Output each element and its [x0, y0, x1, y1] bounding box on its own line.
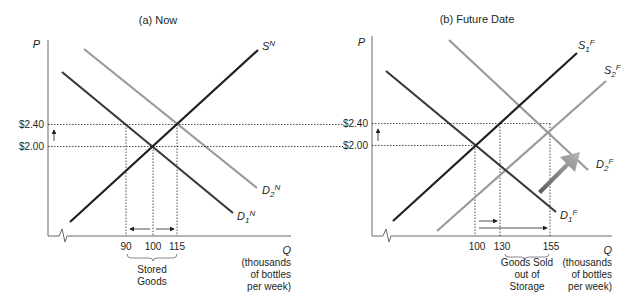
stored-goods-brace — [127, 254, 177, 261]
q-unit-line3: per week) — [247, 281, 291, 292]
q-axis-label: Q — [603, 244, 612, 256]
price-240-label: $2.40 — [19, 119, 44, 130]
goods-sold-label-3: Storage — [509, 281, 544, 292]
q-unit-line2: of bottles — [250, 269, 291, 280]
q-unit-line1: (thousands — [242, 257, 291, 268]
q-tick-100: 100 — [145, 241, 162, 252]
sn-label: SN — [262, 39, 275, 52]
panel-future-date: (b) Future Date P Q (thousands of bottle… — [153, 13, 622, 292]
demand-curve-d2n — [84, 49, 257, 188]
q-axis-label: Q — [282, 244, 291, 256]
p-axis-label: P — [358, 36, 366, 48]
stored-goods-label-2: Goods — [137, 276, 166, 287]
supply-curve-s1f — [393, 53, 577, 221]
q-tick-130: 130 — [494, 241, 511, 252]
demand-curve-d1n — [62, 72, 233, 213]
s2f-label: S2F — [604, 63, 622, 79]
goods-sold-label-2: out of — [514, 269, 539, 280]
storage-supply-demand-figure: (a) Now P Q (thousands of bottles per we… — [0, 0, 634, 307]
goods-sold-label-1: Goods Sold — [501, 257, 553, 268]
q-unit-line1: (thousands — [563, 257, 612, 268]
price-200-label: $2.00 — [343, 140, 368, 151]
price-200-label: $2.00 — [19, 141, 44, 152]
p-axis-label: P — [33, 38, 41, 50]
guide-lines — [372, 124, 550, 237]
q-unit-line3: per week) — [568, 281, 612, 292]
q-unit-line2: of bottles — [571, 269, 612, 280]
q-tick-115: 115 — [169, 241, 185, 252]
panel-title: (a) Now — [139, 14, 178, 26]
d1n-label: D1N — [237, 209, 255, 225]
d1f-label: D1F — [560, 208, 578, 224]
d2n-label: D2N — [262, 183, 280, 199]
supply-curve-sn — [70, 50, 258, 222]
q-tick-155: 155 — [543, 241, 560, 252]
panel-title: (b) Future Date — [440, 13, 515, 25]
panel-now: (a) Now P Q (thousands of bottles per we… — [19, 14, 291, 292]
stored-goods-label-1: Stored — [137, 264, 166, 275]
price-240-label: $2.40 — [343, 118, 368, 129]
q-tick-100: 100 — [469, 241, 486, 252]
demand-shift-arrow — [538, 152, 580, 194]
demand-curve-d1f — [386, 71, 556, 212]
s1f-label: S1F — [578, 38, 596, 54]
q-tick-90: 90 — [120, 241, 132, 252]
d2f-label: D2F — [596, 157, 614, 173]
